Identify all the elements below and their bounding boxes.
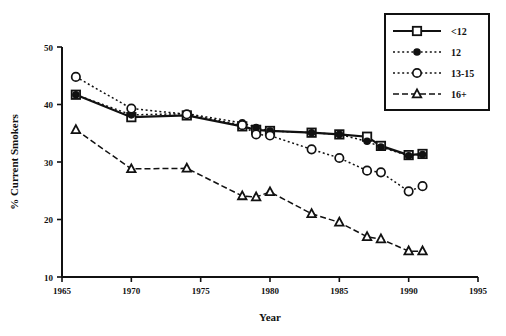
legend-label: 12 (451, 47, 461, 58)
series-13-15 (72, 73, 427, 196)
legend-label: <12 (451, 26, 467, 37)
data-point (307, 209, 315, 217)
data-point (335, 154, 343, 162)
data-point (266, 187, 274, 195)
data-point (336, 131, 342, 137)
y-axis-tick-label: 10 (44, 273, 54, 283)
x-axis-title: Year (259, 311, 281, 323)
y-axis-tick-label: 40 (44, 100, 54, 110)
legend-marker (414, 49, 420, 55)
x-axis-tick-label: 1990 (400, 286, 419, 296)
y-axis-tick-label: 30 (44, 158, 54, 168)
data-point (309, 130, 315, 136)
data-point (404, 247, 412, 255)
data-point (127, 104, 135, 112)
y-axis-tick-label: 50 (44, 43, 54, 53)
x-axis-tick-label: 1965 (53, 286, 72, 296)
data-point (377, 168, 385, 176)
data-point (307, 145, 315, 153)
data-point (252, 192, 260, 200)
data-point (378, 144, 384, 150)
legend-marker-glyph (413, 69, 421, 77)
x-axis-tick-label: 1975 (192, 286, 211, 296)
data-point (183, 110, 191, 118)
legend-marker (413, 27, 421, 35)
data-point (363, 232, 371, 240)
data-point (238, 121, 246, 129)
y-axis-title: % Current Smokers (8, 113, 20, 209)
x-axis-tick-label: 1995 (469, 286, 488, 296)
data-point (406, 153, 412, 159)
y-axis-tick-label: 20 (44, 215, 54, 225)
legend-marker-glyph (414, 49, 420, 55)
data-point (418, 182, 426, 190)
data-point (183, 164, 191, 172)
data-point (363, 166, 371, 174)
data-point (418, 247, 426, 255)
data-point (238, 191, 246, 199)
data-point (266, 131, 274, 139)
series-line (76, 130, 423, 251)
legend: <121213-1516+ (385, 14, 489, 110)
legend-label: 13-15 (451, 68, 474, 79)
data-point (335, 218, 343, 226)
x-axis-tick-label: 1985 (330, 286, 349, 296)
data-point (127, 164, 135, 172)
series-line (76, 95, 423, 156)
series-12 (73, 92, 426, 159)
data-point (404, 187, 412, 195)
legend-marker-glyph (413, 27, 421, 35)
legend-marker (413, 69, 421, 77)
data-point (73, 92, 79, 98)
data-point (72, 125, 80, 133)
x-axis-tick-label: 1980 (261, 286, 280, 296)
x-axis-tick-label: 1970 (122, 286, 141, 296)
data-point (252, 130, 260, 138)
data-point (420, 152, 426, 158)
legend-label: 16+ (451, 89, 467, 100)
data-point (364, 138, 370, 144)
legend-box (385, 14, 489, 110)
series--12 (72, 91, 427, 160)
series-line (76, 95, 423, 155)
data-point (72, 73, 80, 81)
chart-container: 10203040501965197019751980198519901995Ye… (0, 0, 506, 336)
data-point (377, 234, 385, 242)
smoking-trend-line-chart: 10203040501965197019751980198519901995Ye… (0, 0, 506, 336)
